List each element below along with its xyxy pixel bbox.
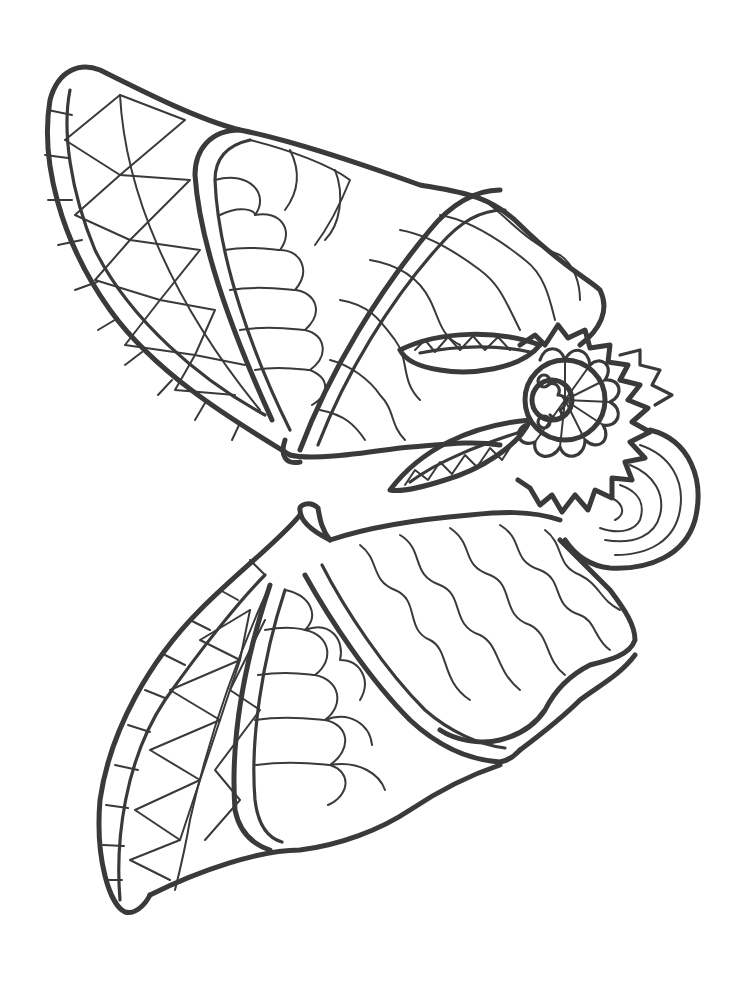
background	[0, 0, 756, 989]
bat-coloring-illustration	[0, 0, 756, 989]
